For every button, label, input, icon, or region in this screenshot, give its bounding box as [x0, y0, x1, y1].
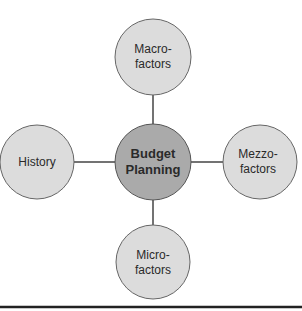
node-label-line2: factors — [240, 162, 276, 176]
node-label-line1: Macro- — [134, 42, 171, 56]
node-macro-factors: Macro- factors — [115, 19, 191, 95]
node-micro-factors: Micro- factors — [116, 225, 190, 299]
node-label-line1: Mezzo- — [238, 147, 277, 161]
node-label-line1: Micro- — [136, 248, 169, 262]
node-label-line2: factors — [135, 263, 171, 277]
node-history: History — [0, 125, 74, 199]
budget-planning-diagram: Macro- factors Budget Planning History M… — [0, 0, 302, 311]
node-budget-planning: Budget Planning — [115, 124, 191, 200]
center-label-line2: Planning — [126, 162, 181, 177]
node-label-line2: factors — [135, 57, 171, 71]
node-label-line1: History — [18, 155, 55, 169]
center-label-line1: Budget — [131, 146, 176, 161]
node-mezzo-factors: Mezzo- factors — [223, 125, 297, 199]
